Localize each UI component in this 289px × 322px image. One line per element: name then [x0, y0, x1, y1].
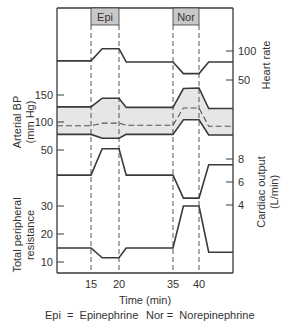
cardiac-output-unit: (L/min)	[268, 175, 280, 209]
heart-rate-line	[57, 49, 233, 74]
arterial-bp-label: Arterial BP	[11, 96, 23, 149]
tpr-tick-20: 20	[41, 228, 53, 240]
bp-systolic-line	[57, 88, 233, 109]
bp-tick-150: 150	[35, 89, 53, 101]
legend-nor: Nor = Norepinephrine	[146, 309, 255, 321]
arterial-bp-axis: 150 100 50 Arterial BP (mm Hg)	[11, 89, 64, 156]
plot-frame	[57, 8, 233, 273]
tpr-axis: 30 20 10 Total peripheral resistance	[11, 197, 64, 272]
tpr-label: Total peripheral	[11, 197, 23, 272]
x-tick-35: 35	[167, 278, 179, 290]
cardiac-output-axis: 8 6 4 Cardiac output (L/min)	[226, 153, 280, 228]
cardiac-output-label: Cardiac output	[255, 156, 267, 228]
heart-rate-label: Heart rate	[260, 41, 272, 90]
tpr-line	[57, 206, 233, 258]
tpr-tick-10: 10	[41, 256, 53, 268]
hemodynamics-figure: Epi Nor 100 50 Heart rate 150 100 50 Art…	[0, 0, 289, 322]
legend-epi: Epi = Epinephrine	[45, 309, 138, 321]
bp-tick-100: 100	[35, 116, 53, 128]
x-tick-40: 40	[193, 278, 205, 290]
drug-box-epi: Epi	[91, 8, 119, 25]
hr-tick-100: 100	[238, 45, 256, 57]
bp-tick-50: 50	[41, 144, 53, 156]
co-tick-8: 8	[238, 153, 244, 165]
cardiac-output-line	[57, 149, 233, 198]
x-axis-title: Time (min)	[119, 294, 171, 306]
tpr-tick-30: 30	[41, 200, 53, 212]
tpr-label-line2: resistance	[24, 210, 36, 260]
x-tick-20: 20	[113, 278, 125, 290]
drug-box-nor: Nor	[173, 8, 199, 25]
x-tick-15: 15	[85, 278, 97, 290]
legend: Epi = Epinephrine Nor = Norepinephrine	[45, 309, 255, 321]
arterial-bp-unit: (mm Hg)	[24, 101, 36, 144]
hr-tick-50: 50	[238, 74, 250, 86]
co-tick-4: 4	[238, 199, 244, 211]
drug-label-nor: Nor	[177, 11, 195, 23]
co-tick-6: 6	[238, 176, 244, 188]
time-axis: 15 20 35 40 Time (min)	[85, 278, 205, 306]
drug-label-epi: Epi	[97, 11, 113, 23]
